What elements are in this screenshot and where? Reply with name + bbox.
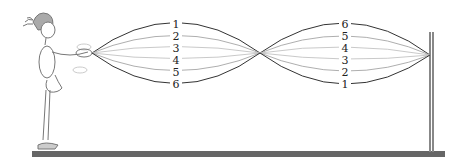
- ground-bar: [32, 151, 445, 157]
- rope-waves: [92, 23, 430, 85]
- standing-wave-diagram: 1 2 3 4 5 6 6 5 4 3 2 1: [0, 0, 460, 163]
- person-figure: [23, 13, 92, 149]
- left-loop-labels: 1 2 3 4 5 6: [170, 18, 182, 91]
- label: 1: [342, 78, 349, 91]
- wall-post: [429, 32, 434, 152]
- right-loop-labels: 6 5 4 3 2 1: [339, 18, 351, 91]
- label: 6: [173, 78, 180, 91]
